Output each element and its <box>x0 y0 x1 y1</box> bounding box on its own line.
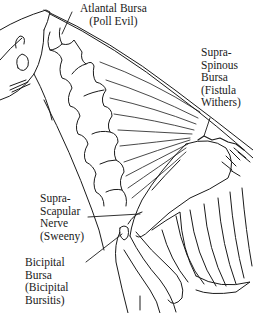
label-bicipital-bursa: Bicipital Bursa (Bicipital Bursitis) <box>25 256 68 306</box>
neck-muscle-lines <box>100 62 200 198</box>
humerus-and-leg <box>116 212 183 313</box>
head-outline <box>0 10 52 120</box>
scapula <box>130 136 250 237</box>
label-suprascapular-nerve: Supra- Scapular Nerve (Sweeny) <box>40 192 84 242</box>
label-supraspinous-bursa: Supra- Spinous Bursa (Fistula Withers) <box>201 46 241 109</box>
label-atlantal-bursa: Atlantal Bursa (Poll Evil) <box>80 2 147 27</box>
ribs <box>152 188 252 294</box>
horse-anatomy-diagram: Atlantal Bursa (Poll Evil) Supra- Spinou… <box>0 0 253 313</box>
